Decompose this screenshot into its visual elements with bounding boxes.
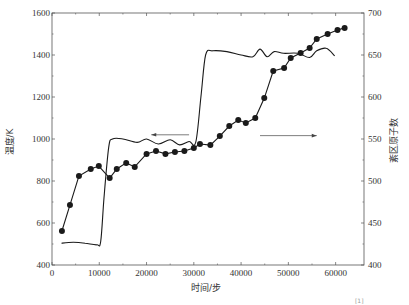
data-marker <box>235 117 241 123</box>
x-tick-label: 0 <box>50 268 55 278</box>
data-marker <box>314 36 320 42</box>
y2-tick-label: 600 <box>368 92 382 102</box>
data-marker <box>132 164 138 170</box>
x-tick-label: 10000 <box>88 268 111 278</box>
y-tick-label: 1400 <box>32 50 51 60</box>
caption-reference: [1] <box>355 297 364 304</box>
chart: 0100002000030000400005000060000400600800… <box>0 0 409 305</box>
y2-tick-label: 500 <box>368 176 382 186</box>
y2-tick-label: 700 <box>368 8 382 18</box>
data-marker <box>67 202 73 208</box>
arrowhead-icon <box>312 134 317 138</box>
x-tick-label: 40000 <box>230 268 253 278</box>
data-marker <box>172 149 178 155</box>
data-marker <box>281 65 287 71</box>
axis-ticks: 0100002000030000400005000060000400600800… <box>32 8 382 278</box>
data-marker <box>96 163 102 169</box>
data-marker <box>153 148 159 154</box>
data-marker <box>217 133 223 139</box>
annotations <box>151 133 316 137</box>
data-marker <box>162 151 168 157</box>
x-tick-label: 20000 <box>135 268 158 278</box>
x-tick-label: 30000 <box>183 268 206 278</box>
x-axis-title: 时间/步 <box>191 282 221 293</box>
y-tick-label: 1600 <box>32 8 51 18</box>
y2-tick-label: 450 <box>368 218 382 228</box>
atom-count-line <box>62 48 335 246</box>
y2-tick-label: 550 <box>368 134 382 144</box>
y-tick-label: 400 <box>37 260 51 270</box>
data-marker <box>123 160 129 166</box>
y-tick-label: 1000 <box>32 134 51 144</box>
data-marker <box>270 68 276 74</box>
data-marker <box>114 166 120 172</box>
x-tick-label: 50000 <box>277 268 300 278</box>
data-marker <box>342 25 348 31</box>
data-marker <box>288 55 294 61</box>
y-tick-label: 600 <box>37 218 51 228</box>
arrowhead-icon <box>151 133 156 137</box>
data-marker <box>325 31 331 37</box>
data-marker <box>243 120 249 126</box>
y2-tick-label: 400 <box>368 260 382 270</box>
data-marker <box>107 175 113 181</box>
data-marker <box>144 151 150 157</box>
data-marker <box>88 166 94 172</box>
data-marker <box>307 45 313 51</box>
data-marker <box>76 173 82 179</box>
y-tick-label: 1200 <box>32 92 51 102</box>
data-marker <box>252 115 258 121</box>
data-marker <box>59 228 65 234</box>
y-tick-label: 800 <box>37 176 51 186</box>
data-marker <box>335 27 341 33</box>
y2-tick-label: 650 <box>368 50 382 60</box>
data-marker <box>226 123 232 129</box>
data-marker <box>261 95 267 101</box>
y-axis-title: 温度/K <box>4 127 15 155</box>
data-marker <box>181 148 187 154</box>
data-marker <box>207 142 213 148</box>
x-tick-label: 60000 <box>324 268 347 278</box>
data-marker <box>197 141 203 147</box>
y2-axis-title: 紊区原子数 <box>388 118 399 163</box>
